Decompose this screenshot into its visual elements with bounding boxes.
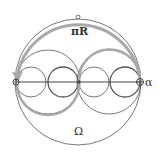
top-point [76, 15, 80, 19]
label-omega: Ω [74, 125, 83, 138]
label-alpha: α [145, 76, 153, 89]
geometry-diagram: πR Ω α [0, 0, 165, 154]
center-point [78, 81, 81, 84]
label-pi-r: πR [71, 25, 89, 38]
arc-left-lower [17, 84, 79, 115]
